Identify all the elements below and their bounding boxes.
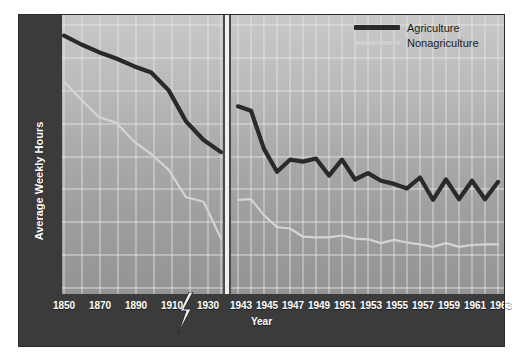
nonagriculture-line-post-war (238, 199, 498, 247)
x-tick-1951: 1951 (334, 300, 356, 311)
data-series (62, 14, 505, 294)
legend: Agriculture Nonagriculture (354, 20, 494, 50)
plot-area: Agriculture Nonagriculture (62, 14, 505, 294)
axis-break-lightning-bolt-icon (171, 292, 199, 334)
x-tick-1870: 1870 (89, 300, 111, 311)
legend-item-agriculture: Agriculture (354, 20, 494, 35)
x-tick-1961: 1961 (464, 300, 486, 311)
axis-break-rule-right (229, 14, 231, 294)
chart-screenshot: Average Weekly Hours 75 70 65 60 55 50 4… (0, 0, 520, 364)
x-tick-1953: 1953 (360, 300, 382, 311)
x-tick-1955: 1955 (386, 300, 408, 311)
x-tick-1959: 1959 (438, 300, 460, 311)
x-tick-1963: 1963 (490, 300, 512, 311)
x-tick-1945: 1945 (256, 300, 278, 311)
x-tick-1949: 1949 (308, 300, 330, 311)
agriculture-line-pre-war (64, 36, 221, 153)
legend-swatch-nonagriculture (354, 41, 400, 45)
nonagriculture-line-pre-war (64, 82, 221, 239)
x-tick-1890: 1890 (125, 300, 147, 311)
x-tick-1930: 1930 (197, 300, 219, 311)
figure-frame: Average Weekly Hours 75 70 65 60 55 50 4… (18, 14, 505, 347)
x-tick-1850: 1850 (53, 300, 75, 311)
x-tick-1947: 1947 (282, 300, 304, 311)
x-tick-1910: 1910 (161, 300, 183, 311)
legend-label-agriculture: Agriculture (407, 22, 460, 34)
agriculture-line-post-war (238, 106, 498, 200)
x-tick-1943: 1943 (230, 300, 252, 311)
legend-item-nonagriculture: Nonagriculture (354, 35, 494, 50)
y-axis-title: Average Weekly Hours (33, 76, 45, 286)
legend-label-nonagriculture: Nonagriculture (407, 37, 479, 49)
x-tick-1957: 1957 (412, 300, 434, 311)
x-axis-title: Year (18, 316, 505, 327)
legend-swatch-agriculture (354, 25, 400, 30)
